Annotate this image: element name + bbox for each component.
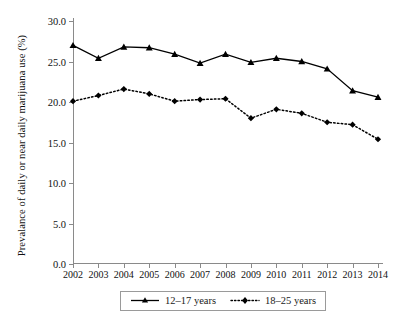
series-2 — [70, 86, 381, 142]
data-point-marker — [146, 91, 152, 97]
x-tick-label: 2014 — [368, 269, 388, 280]
x-tick-mark — [302, 264, 303, 268]
data-point-marker — [222, 51, 229, 57]
data-point-marker — [95, 55, 102, 61]
x-tick-label: 2009 — [241, 269, 261, 280]
legend-key-dotted-diamond-icon — [230, 295, 260, 306]
x-tick-mark — [327, 264, 328, 268]
data-point-marker — [375, 136, 381, 142]
x-tick-mark — [149, 264, 150, 268]
x-tick-label: 2010 — [266, 269, 286, 280]
data-point-marker — [273, 106, 279, 112]
legend-item-18-25: 18–25 years — [230, 295, 316, 306]
x-tick-mark — [73, 264, 74, 268]
plot-area: 0.05.010.015.020.025.030.0 2002200320042… — [73, 21, 378, 264]
series-layer — [73, 21, 378, 264]
x-tick-label: 2013 — [343, 269, 363, 280]
legend-label-12-17: 12–17 years — [165, 295, 216, 306]
x-tick-label: 2004 — [114, 269, 134, 280]
legend-item-12-17: 12–17 years — [130, 295, 216, 306]
x-tick-mark — [276, 264, 277, 268]
x-tick-label: 2002 — [63, 269, 83, 280]
data-point-marker — [222, 96, 228, 102]
data-point-marker — [172, 98, 178, 104]
chart-legend: 12–17 years 18–25 years — [120, 291, 326, 311]
x-tick-mark — [98, 264, 99, 268]
data-point-marker — [324, 119, 330, 125]
x-tick-label: 2006 — [165, 269, 185, 280]
x-tick-mark — [378, 264, 379, 268]
data-point-marker — [95, 92, 101, 98]
x-tick-mark — [251, 264, 252, 268]
x-tick-label: 2011 — [292, 269, 312, 280]
x-tick-label: 2005 — [139, 269, 159, 280]
data-point-marker — [121, 86, 127, 92]
x-tick-mark — [353, 264, 354, 268]
data-point-marker — [349, 122, 355, 128]
x-tick-mark — [226, 264, 227, 268]
series-1 — [70, 42, 382, 100]
x-tick-mark — [175, 264, 176, 268]
legend-key-solid-triangle-icon — [130, 295, 160, 306]
data-point-marker — [197, 96, 203, 102]
legend-label-18-25: 18–25 years — [265, 295, 316, 306]
x-tick-label: 2012 — [317, 269, 337, 280]
x-tick-label: 2003 — [88, 269, 108, 280]
data-point-marker — [70, 42, 77, 48]
chart-figure: Prevalance of daily or near daily mariju… — [0, 0, 409, 319]
x-tick-label: 2008 — [216, 269, 236, 280]
x-tick-label: 2007 — [190, 269, 210, 280]
y-axis-title: Prevalance of daily or near daily mariju… — [16, 21, 27, 271]
x-tick-mark — [200, 264, 201, 268]
data-point-marker — [299, 110, 305, 116]
x-tick-mark — [124, 264, 125, 268]
